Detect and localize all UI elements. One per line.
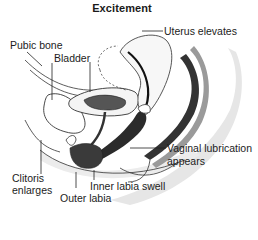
label-clitoris: Clitoris <box>12 172 44 184</box>
label-inner-labia: Inner labia swell <box>90 180 165 192</box>
inner-labia-shape <box>70 144 103 169</box>
label-clitoris-enlarges: enlarges <box>12 184 52 196</box>
label-outer-labia: Outer labia <box>60 192 111 204</box>
label-uterus-elevates: Uterus elevates <box>164 25 237 37</box>
clitoris-shape <box>66 136 76 146</box>
label-vaginal-appears: appears <box>167 155 205 167</box>
label-bladder: Bladder <box>54 52 90 64</box>
label-pubic-bone: Pubic bone <box>10 39 63 51</box>
label-vaginal-lubrication: Vaginal lubrication <box>167 142 252 154</box>
